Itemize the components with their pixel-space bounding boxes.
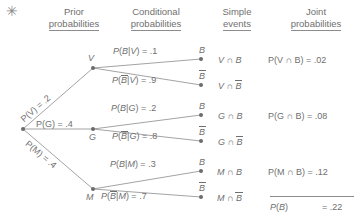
- node-v: [91, 66, 95, 70]
- joint-probability-3: P(G ∩ B) = .08: [268, 111, 327, 121]
- total-divider: [270, 196, 354, 197]
- conditional-label-b-given-v: P(B|V) = .1: [113, 47, 157, 56]
- leaf-label-6: B: [199, 183, 205, 193]
- node-g: [91, 127, 95, 131]
- joint-probability-5: P(M ∩ B) = .12: [268, 167, 328, 177]
- simple-event-2: V ∩ B: [218, 81, 242, 91]
- total-value: = .22: [322, 202, 342, 212]
- edge-g-b: [93, 115, 201, 129]
- conditional-label-bbar-given-v: P(B|V) = .9: [112, 76, 156, 85]
- simple-event-1: V ∩ B: [218, 55, 242, 65]
- conditional-label-b-given-g: P(B|G) = .2: [111, 104, 156, 113]
- edge-root-m: [23, 129, 93, 189]
- prior-label-g: P(G) = .4: [36, 120, 73, 129]
- node-root: [21, 127, 25, 131]
- edge-m-b: [93, 171, 201, 189]
- edge-v-b: [93, 59, 201, 68]
- node-label-v: V: [88, 53, 94, 63]
- node-leaf-1: [199, 57, 203, 61]
- node-leaf-5: [199, 169, 203, 173]
- conditional-label-bbar-given-m: P(B|M) = .7: [101, 192, 147, 201]
- simple-event-5: M ∩ B: [217, 167, 242, 177]
- simple-event-3: G ∩ B: [218, 111, 243, 121]
- leaf-label-3: B: [199, 101, 205, 111]
- node-leaf-3: [199, 113, 203, 117]
- leaf-label-5: B: [199, 157, 205, 167]
- total-label: P(B): [270, 202, 288, 212]
- node-leaf-6: [199, 195, 203, 199]
- leaf-label-2: B: [199, 71, 205, 81]
- node-label-m: M: [86, 192, 94, 202]
- node-label-g: G: [89, 132, 96, 142]
- conditional-label-bbar-given-g: P(B|G) = .8: [112, 132, 157, 141]
- node-leaf-4: [199, 139, 203, 143]
- joint-probability-1: P(V ∩ B) = .02: [268, 55, 326, 65]
- conditional-label-b-given-m: P(B|M) = .3: [110, 160, 156, 169]
- simple-event-4: G ∩ B: [218, 137, 243, 147]
- node-leaf-2: [199, 83, 203, 87]
- leaf-label-1: B: [199, 45, 205, 55]
- simple-event-6: M ∩ B: [217, 193, 242, 203]
- node-m: [91, 187, 95, 191]
- probability-tree-figure: ✳ Prior probabilities Conditional probab…: [0, 0, 358, 222]
- leaf-label-4: B: [199, 127, 205, 137]
